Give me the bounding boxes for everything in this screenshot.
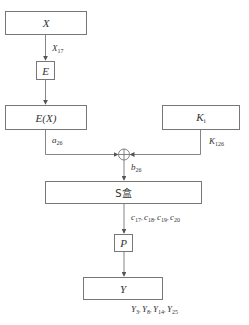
ex-box-label: E(X) <box>36 112 57 124</box>
k-box-label: Ki <box>196 111 205 125</box>
a26-label: a26 <box>52 136 63 146</box>
x17-label: X17 <box>52 44 64 54</box>
y-box: Y <box>83 277 163 300</box>
y-outputs-label: Y3, Y8, Y14, Y25 <box>131 305 178 315</box>
y-box-label: Y <box>120 283 126 295</box>
ex-box: E(X) <box>5 105 87 130</box>
p-box: P <box>114 234 133 252</box>
e-box: E <box>36 61 55 80</box>
x-box: X <box>5 11 87 35</box>
x-box-label: X <box>43 17 50 29</box>
b26-label: b26 <box>131 163 142 173</box>
k-box: Ki <box>162 105 240 130</box>
k126-label: K126 <box>209 137 224 147</box>
xor-circle-icon <box>119 149 130 160</box>
s-box: S盒 <box>45 181 202 204</box>
e-box-label: E <box>42 65 49 77</box>
c-outputs-label: c17, c18, c19, c20 <box>131 213 180 223</box>
s-box-label: S盒 <box>115 185 131 200</box>
p-box-label: P <box>120 237 127 249</box>
arrow-k-to-xor <box>131 130 201 155</box>
